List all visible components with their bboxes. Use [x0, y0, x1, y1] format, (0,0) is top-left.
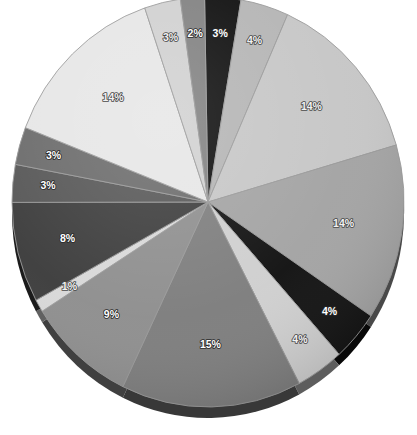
pie-slice-label: 3%: [163, 31, 179, 43]
pie-chart: 3%4%14%14%4%4%15%9%1%8%3%3%14%3%2%: [0, 0, 417, 435]
pie-slice-label: 14%: [103, 91, 125, 103]
pie-slice-label: 2%: [188, 27, 204, 39]
pie-slice-label: 3%: [40, 179, 56, 191]
pie-chart-canvas: 3%4%14%14%4%4%15%9%1%8%3%3%14%3%2%: [0, 0, 417, 435]
pie-slice-label: 14%: [301, 100, 323, 112]
pie-slice-label: 9%: [104, 308, 120, 320]
pie-slice-label: 15%: [200, 338, 222, 350]
pie-slice-label: 4%: [322, 305, 338, 317]
pie-slice-label: 8%: [60, 232, 76, 244]
pie-slice-label: 3%: [46, 149, 62, 161]
pie-slice-label: 1%: [62, 280, 78, 292]
pie-slice-label: 4%: [292, 333, 308, 345]
pie-slice-label: 14%: [333, 217, 355, 229]
pie-slice-label: 4%: [247, 34, 263, 46]
pie-slice-label: 3%: [213, 27, 229, 39]
